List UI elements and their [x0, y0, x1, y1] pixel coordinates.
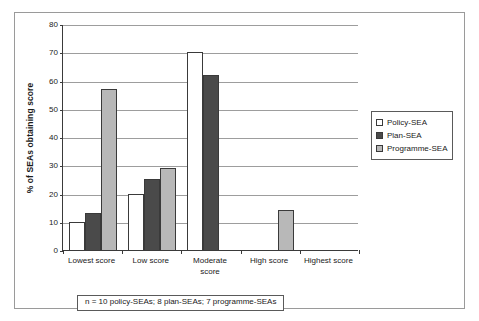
chart-legend: Policy-SEAPlan-SEAProgramme-SEA	[371, 111, 453, 160]
x-tick-label: Low score	[121, 256, 180, 267]
bar-group	[181, 25, 240, 250]
legend-item[interactable]: Programme-SEA	[376, 142, 447, 155]
y-tick-label: 60	[49, 78, 58, 86]
y-tick-label: 20	[49, 191, 58, 199]
footnote-text: n = 10 policy-SEAs; 8 plan-SEAs; 7 progr…	[85, 298, 276, 307]
x-tick-label: Moderatescore	[180, 256, 239, 277]
bar-group	[300, 25, 359, 250]
y-tick-label: 70	[49, 49, 58, 57]
x-tick-label-line: Highest score	[299, 256, 358, 267]
plot-area: 01020304050607080	[62, 25, 358, 251]
x-tick-label-line: Lowest score	[62, 256, 121, 267]
x-tick-label: High score	[240, 256, 299, 267]
y-tick-label: 50	[49, 106, 58, 114]
legend-item-label: Policy-SEA	[387, 119, 427, 127]
x-tick-label: Highest score	[299, 256, 358, 267]
bar	[144, 179, 160, 250]
x-tick-mark	[300, 250, 301, 254]
x-tick-label-line: Low score	[121, 256, 180, 267]
y-tick-label: 10	[49, 219, 58, 227]
legend-item[interactable]: Plan-SEA	[376, 129, 447, 142]
bar	[69, 222, 85, 250]
x-tick-label: Lowest score	[62, 256, 121, 267]
x-tick-mark	[122, 250, 123, 254]
x-tick-label-line: Moderate	[180, 256, 239, 267]
legend-item-label: Plan-SEA	[387, 132, 422, 140]
y-axis-title: % of SEAs obtaining score	[23, 25, 37, 251]
y-tick-label: 0	[54, 247, 58, 255]
x-tick-label-line: High score	[240, 256, 299, 267]
y-axis-title-text: % of SEAs obtaining score	[25, 83, 35, 194]
bar	[101, 89, 117, 250]
bar	[187, 52, 203, 250]
y-tick-label: 80	[49, 21, 58, 29]
bar-group	[122, 25, 181, 250]
footnote-box: n = 10 policy-SEAs; 8 plan-SEAs; 7 progr…	[77, 295, 284, 311]
x-tick-mark	[63, 250, 64, 254]
bar-group	[241, 25, 300, 250]
x-tick-mark	[241, 250, 242, 254]
bar	[278, 210, 294, 250]
bar	[160, 168, 176, 250]
legend-swatch-icon	[376, 145, 383, 152]
legend-item[interactable]: Policy-SEA	[376, 116, 447, 129]
bar-series-layer	[63, 25, 358, 250]
legend-swatch-icon	[376, 119, 383, 126]
bar	[203, 75, 219, 250]
bar-group	[63, 25, 122, 250]
x-tick-mark	[181, 250, 182, 254]
bar	[128, 194, 144, 251]
x-tick-mark	[359, 250, 360, 254]
legend-item-label: Programme-SEA	[387, 145, 447, 153]
chart-figure: % of SEAs obtaining score 01020304050607…	[14, 12, 465, 309]
y-tick-label: 30	[49, 162, 58, 170]
x-tick-label-line: score	[180, 267, 239, 278]
x-axis-labels: Lowest scoreLow scoreModeratescoreHigh s…	[62, 256, 358, 290]
bar	[85, 213, 101, 250]
y-tick-label: 40	[49, 134, 58, 142]
legend-swatch-icon	[376, 132, 383, 139]
